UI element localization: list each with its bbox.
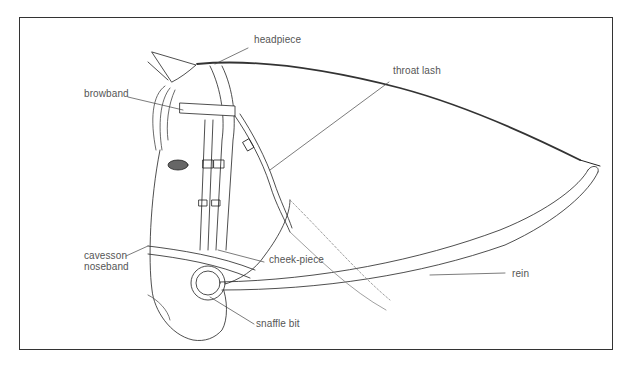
label-browband: browband	[84, 88, 129, 99]
face-outline	[150, 150, 226, 341]
label-cavesson-line1: cavesson	[84, 250, 129, 261]
label-throat-lash: throat lash	[393, 65, 441, 76]
headpiece-strap	[210, 66, 234, 250]
label-snaffle-bit: snaffle bit	[256, 318, 300, 329]
throat-lash-strap	[235, 114, 292, 232]
label-rein: rein	[512, 268, 529, 279]
label-cheek-piece: cheek-piece	[269, 254, 324, 265]
eye	[168, 160, 188, 170]
label-headpiece: headpiece	[254, 34, 301, 45]
browband-strap	[180, 103, 235, 116]
label-cavesson-noseband: cavesson noseband	[84, 250, 129, 272]
rein-strap	[220, 170, 598, 290]
ear	[152, 52, 196, 82]
label-noseband-line2: noseband	[84, 261, 129, 272]
forelock	[153, 86, 175, 150]
horse-bridle-illustration	[0, 0, 636, 370]
mane-crest	[197, 62, 580, 160]
